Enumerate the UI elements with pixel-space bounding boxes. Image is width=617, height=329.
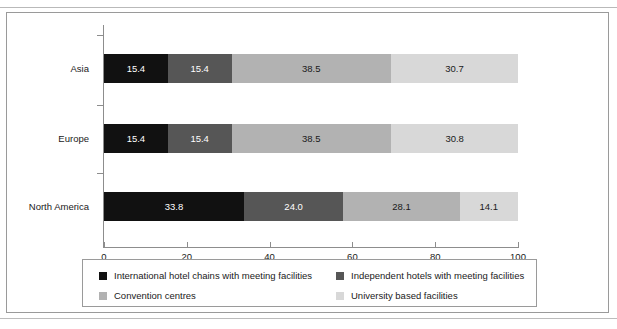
bar-segment: 15.4 bbox=[104, 54, 168, 83]
x-axis-tick bbox=[435, 242, 436, 248]
bar-segment: 24.0 bbox=[244, 192, 343, 221]
source-note-partial bbox=[3, 320, 423, 329]
bar-segment: 33.8 bbox=[104, 192, 244, 221]
legend-item: Convention centres bbox=[99, 290, 196, 301]
chart-legend: International hotel chains with meeting … bbox=[82, 259, 537, 307]
bar-segment: 15.4 bbox=[168, 54, 232, 83]
x-axis-tick bbox=[104, 242, 105, 248]
bar-segment: 28.1 bbox=[343, 192, 459, 221]
legend-swatch-icon bbox=[99, 292, 107, 300]
bar-segment: 14.1 bbox=[460, 192, 518, 221]
category-label-europe: Europe bbox=[58, 133, 89, 144]
bar-segment: 15.4 bbox=[104, 124, 168, 153]
legend-item: International hotel chains with meeting … bbox=[99, 270, 312, 281]
bar-segment: 15.4 bbox=[168, 124, 232, 153]
top-rule bbox=[0, 7, 617, 8]
legend-swatch-icon bbox=[99, 272, 107, 280]
bar-row: 15.415.438.530.8 bbox=[104, 124, 518, 153]
figure-caption-partial bbox=[2, 0, 615, 6]
legend-swatch-icon bbox=[336, 272, 344, 280]
bottom-rule bbox=[0, 318, 617, 319]
x-axis-tick bbox=[352, 242, 353, 248]
plot-area: 020406080100 AsiaEuropeNorth America 15.… bbox=[7, 13, 610, 253]
legend-label: Independent hotels with meeting faciliti… bbox=[351, 270, 524, 281]
bar-segment: 30.7 bbox=[391, 54, 518, 83]
bar-segment: 38.5 bbox=[232, 124, 391, 153]
category-label-asia: Asia bbox=[71, 63, 89, 74]
x-axis-tick bbox=[187, 242, 188, 248]
legend-item: Independent hotels with meeting faciliti… bbox=[336, 270, 524, 281]
y-axis-tick bbox=[97, 173, 103, 174]
legend-label: Convention centres bbox=[114, 290, 196, 301]
x-axis-tick bbox=[518, 242, 519, 248]
bar-row: 33.824.028.114.1 bbox=[104, 192, 518, 221]
x-axis-line bbox=[103, 247, 519, 248]
bar-row: 15.415.438.530.7 bbox=[104, 54, 518, 83]
category-label-north-america: North America bbox=[29, 201, 89, 212]
x-axis-tick bbox=[270, 242, 271, 248]
legend-label: University based facilities bbox=[351, 290, 458, 301]
legend-item: University based facilities bbox=[336, 290, 458, 301]
legend-label: International hotel chains with meeting … bbox=[114, 270, 312, 281]
figure-frame: 020406080100 AsiaEuropeNorth America 15.… bbox=[6, 12, 609, 313]
y-axis-tick bbox=[97, 35, 103, 36]
bar-segment: 30.8 bbox=[391, 124, 519, 153]
bar-segment: 38.5 bbox=[232, 54, 391, 83]
y-axis-tick bbox=[97, 105, 103, 106]
legend-swatch-icon bbox=[336, 292, 344, 300]
